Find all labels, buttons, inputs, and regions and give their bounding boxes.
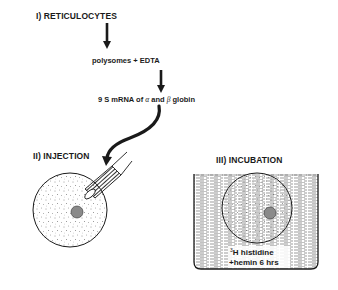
mrna-prefix: 9 S mRNA of <box>98 95 145 104</box>
arrow-down-icon <box>157 70 165 93</box>
globin-text: globin <box>170 95 195 104</box>
incubation-medium-line1: 3H histidine <box>230 248 274 257</box>
nucleus <box>264 207 276 219</box>
oocyte-incubation <box>222 173 292 243</box>
nucleus <box>71 206 83 218</box>
diagram-canvas: I) RETICULOCYTES polysomes + EDTA 9 S mR… <box>0 0 338 290</box>
step-3-label: III) INCUBATION <box>216 156 283 165</box>
polysomes-label: polysomes + EDTA <box>92 57 160 65</box>
mrna-label: 9 S mRNA of α and β globin <box>98 96 195 104</box>
step-2-label: II) INJECTION <box>33 152 90 161</box>
arrow-down-icon <box>103 23 111 49</box>
step-1-label: I) RETICULOCYTES <box>36 12 117 21</box>
histidine-text: H histidine <box>233 248 274 257</box>
diagram-graphics <box>0 0 338 290</box>
and-text: and <box>149 95 167 104</box>
curved-arrow-icon <box>102 106 159 166</box>
incubation-medium-line2: +hemin 6 hrs <box>229 259 279 267</box>
